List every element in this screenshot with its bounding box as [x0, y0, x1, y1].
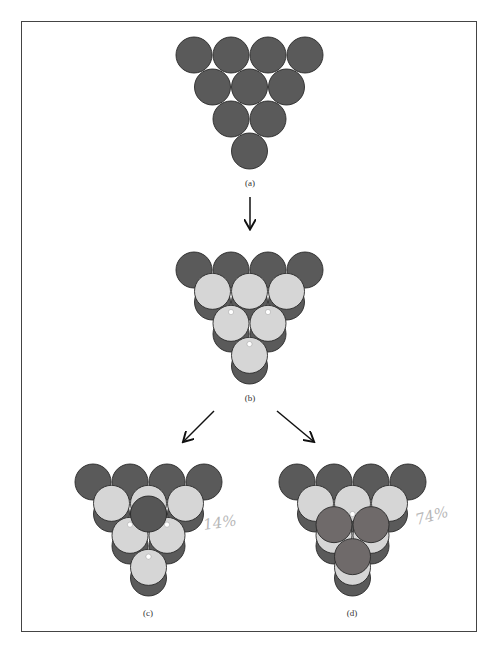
interstitial-hole — [350, 511, 355, 516]
sphere-packing-diagram: (a) (b) (c) 14% (d) 74% — [0, 0, 497, 646]
interstitial-hole — [164, 522, 169, 527]
sphere-layer-a — [213, 37, 249, 73]
sphere-layer-a — [287, 37, 323, 73]
interstitial-hole — [127, 522, 132, 527]
arrow-to-c-icon — [184, 411, 214, 441]
arrow-to-d-icon — [277, 411, 313, 441]
sphere-layer-b — [94, 485, 130, 521]
sphere-layer-b — [168, 485, 204, 521]
interstitial-hole — [146, 554, 151, 559]
annotation-c: 14% — [202, 511, 238, 533]
label-b: (b) — [245, 393, 256, 403]
label-c: (c) — [143, 608, 153, 618]
annotation-d: 74% — [413, 503, 450, 529]
interstitial-hole — [265, 309, 270, 314]
sphere-layer-a — [195, 69, 231, 105]
figure-d — [279, 464, 426, 596]
sphere-layer-c-ccp — [335, 539, 371, 575]
sphere-layer-c-ccp — [353, 507, 389, 543]
sphere-layer-a — [250, 101, 286, 137]
sphere-layer-a — [269, 69, 305, 105]
sphere-layer-a — [176, 37, 212, 73]
label-d: (d) — [347, 608, 358, 618]
figure-c — [75, 464, 222, 596]
sphere-layer-b — [195, 273, 231, 309]
interstitial-hole — [247, 341, 252, 346]
interstitial-hole — [228, 309, 233, 314]
sphere-layer-a — [232, 133, 268, 169]
sphere-layer-a — [250, 37, 286, 73]
sphere-layer-a — [232, 69, 268, 105]
sphere-layer-c-ccp — [316, 507, 352, 543]
sphere-layer-b — [269, 273, 305, 309]
label-a: (a) — [245, 178, 255, 188]
sphere-layer-b — [232, 273, 268, 309]
sphere-layer-a — [213, 101, 249, 137]
figure-b — [176, 252, 323, 384]
sphere-layer-c-hcp — [131, 496, 167, 532]
figure-a — [176, 37, 323, 169]
